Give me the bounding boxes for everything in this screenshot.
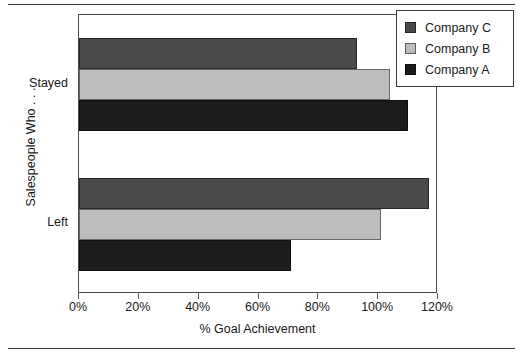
legend-swatch-icon	[405, 43, 416, 54]
x-tick	[138, 293, 139, 299]
bar-row	[79, 178, 436, 209]
y-axis-label-left: Left	[47, 215, 68, 229]
bar-row	[79, 240, 436, 271]
bar-company-c-left[interactable]	[79, 178, 429, 209]
x-tick	[258, 293, 259, 299]
chart-legend: Company CCompany BCompany A	[396, 10, 514, 87]
bar-company-b-stayed[interactable]	[79, 69, 390, 100]
x-axis-title: % Goal Achievement	[78, 322, 437, 336]
bar-company-a-left[interactable]	[79, 240, 291, 271]
bottom-horizontal-rule	[8, 348, 515, 349]
chart-figure: StayedLeft Salespeople Who . . . 0%20%40…	[0, 0, 523, 357]
x-tick-label: 20%	[125, 300, 150, 314]
bar-row	[79, 38, 436, 69]
plot-area	[79, 15, 436, 292]
bar-group-stayed	[79, 38, 436, 131]
x-tick	[78, 293, 79, 299]
legend-swatch-icon	[405, 22, 416, 33]
bar-company-b-left[interactable]	[79, 209, 381, 240]
legend-swatch-icon	[405, 64, 416, 75]
bar-company-c-stayed[interactable]	[79, 38, 357, 69]
x-tick-label: 120%	[421, 300, 453, 314]
x-tick-label: 40%	[185, 300, 210, 314]
legend-label: Company B	[425, 42, 490, 56]
bar-row	[79, 69, 436, 100]
bar-row	[79, 100, 436, 131]
legend-item-company-b[interactable]: Company B	[405, 38, 505, 59]
bar-row	[79, 209, 436, 240]
x-tick-label: 80%	[305, 300, 330, 314]
x-tick	[198, 293, 199, 299]
plot-frame	[78, 14, 437, 293]
y-axis-category-labels: StayedLeft	[0, 14, 76, 293]
x-tick-label: 60%	[245, 300, 270, 314]
legend-label: Company C	[425, 21, 491, 35]
y-axis-title: Salespeople Who . . .	[24, 37, 38, 257]
bar-company-a-stayed[interactable]	[79, 100, 408, 131]
top-horizontal-rule	[8, 4, 515, 5]
legend-label: Company A	[425, 63, 490, 77]
x-axis-tick-labels: 0%20%40%60%80%100%120%	[78, 300, 437, 318]
x-tick	[437, 293, 438, 299]
x-tick	[317, 293, 318, 299]
x-tick	[377, 293, 378, 299]
legend-item-company-a[interactable]: Company A	[405, 59, 505, 80]
x-tick-label: 100%	[361, 300, 393, 314]
x-tick-label: 0%	[69, 300, 87, 314]
legend-item-company-c[interactable]: Company C	[405, 17, 505, 38]
bar-group-left	[79, 178, 436, 271]
